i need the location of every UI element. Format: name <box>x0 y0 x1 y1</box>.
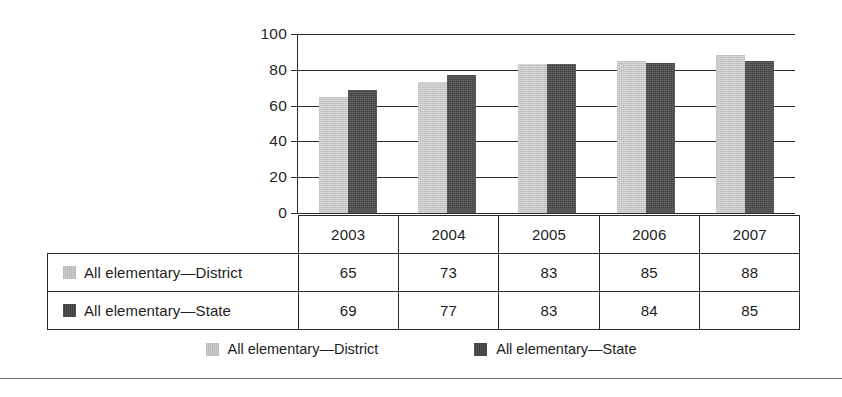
table-row-label-state: All elementary—State <box>48 292 299 330</box>
table-cell-district-2003: 65 <box>298 254 398 292</box>
bar-state-2004 <box>447 75 476 213</box>
y-tick-label-60: 60 <box>269 97 287 115</box>
y-tick-label-80: 80 <box>269 61 287 79</box>
table-header-2004: 2004 <box>398 216 498 254</box>
row-label-text: All elementary—State <box>84 302 231 319</box>
y-tick-20 <box>291 177 298 178</box>
legend-item-district: All elementary—District <box>206 341 379 357</box>
table-header-row: 2003 2004 2005 2006 2007 <box>48 216 800 254</box>
bars-layer <box>298 34 795 213</box>
table-cell-district-2006: 85 <box>599 254 699 292</box>
y-tick-label-40: 40 <box>269 132 287 150</box>
gridline-0 <box>298 213 795 214</box>
data-table: 2003 2004 2005 2006 2007 All elementary—… <box>47 215 800 330</box>
chart-figure: 020406080100 2003 2004 2005 2006 2007 Al… <box>0 0 842 397</box>
row-label-text: All elementary—District <box>84 264 242 281</box>
bar-district-2007 <box>716 55 745 213</box>
table-row: All elementary—District 65 73 83 85 88 <box>48 254 800 292</box>
bar-state-2005 <box>547 64 576 213</box>
table-cell-state-2006: 84 <box>599 292 699 330</box>
bar-district-2006 <box>617 61 646 213</box>
legend-swatch-state-icon <box>474 343 487 356</box>
y-tick-40 <box>291 141 298 142</box>
bar-state-2007 <box>745 61 774 213</box>
table-header-2003: 2003 <box>298 216 398 254</box>
table-cell-state-2003: 69 <box>298 292 398 330</box>
legend-label-state: All elementary—State <box>496 341 636 357</box>
y-tick-label-20: 20 <box>269 168 287 186</box>
bar-state-2006 <box>646 63 675 213</box>
legend-item-state: All elementary—State <box>474 341 636 357</box>
table-row: All elementary—State 69 77 83 84 85 <box>48 292 800 330</box>
plot-area: 020406080100 <box>298 34 795 213</box>
series-swatch-district-icon <box>63 266 76 279</box>
y-tick-80 <box>291 70 298 71</box>
bar-district-2003 <box>319 97 348 213</box>
y-tick-label-100: 100 <box>261 25 287 43</box>
bottom-divider <box>0 378 842 379</box>
legend-label-district: All elementary—District <box>228 341 379 357</box>
table-header-2005: 2005 <box>499 216 599 254</box>
bar-district-2004 <box>418 82 447 213</box>
y-tick-100 <box>291 34 298 35</box>
table-header-2006: 2006 <box>599 216 699 254</box>
table-cell-district-2005: 83 <box>499 254 599 292</box>
table-cell-state-2007: 85 <box>700 292 800 330</box>
table-corner-cell <box>48 216 299 254</box>
table-header-2007: 2007 <box>700 216 800 254</box>
chart-legend: All elementary—District All elementary—S… <box>47 341 795 357</box>
table-row-label-district: All elementary—District <box>48 254 299 292</box>
bar-district-2005 <box>518 64 547 213</box>
table-cell-district-2004: 73 <box>398 254 498 292</box>
table-cell-state-2005: 83 <box>499 292 599 330</box>
table-cell-district-2007: 88 <box>700 254 800 292</box>
table-cell-state-2004: 77 <box>398 292 498 330</box>
y-tick-60 <box>291 106 298 107</box>
bar-state-2003 <box>348 90 377 214</box>
series-swatch-state-icon <box>63 304 76 317</box>
legend-swatch-district-icon <box>206 343 219 356</box>
y-tick-0 <box>291 213 298 214</box>
